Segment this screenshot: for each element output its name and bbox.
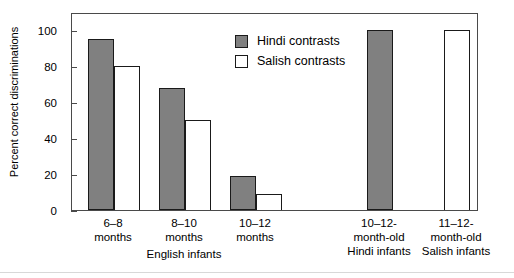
- bar-hindi-infants[interactable]: [367, 30, 393, 210]
- x-category-10-12-months: 10–12 months: [215, 216, 295, 244]
- x-category-salish-infants: 11–12- month-old Salish infants: [411, 216, 501, 258]
- legend-label-salish: Salish contrasts: [257, 54, 345, 68]
- x-category-line1: 10–12: [215, 216, 295, 230]
- x-category-8-10-months: 8–10 months: [144, 216, 224, 244]
- y-tick-mark: [71, 211, 77, 212]
- bottom-divider: [0, 272, 514, 273]
- y-tick-label-20: 20: [17, 167, 57, 183]
- x-category-line2: month-old: [411, 230, 501, 244]
- legend-label-hindi: Hindi contrasts: [257, 34, 340, 48]
- y-tick-mark: [71, 31, 77, 32]
- x-category-line3: Hindi infants: [336, 244, 422, 258]
- white-outlined-square-icon: [235, 55, 248, 68]
- y-tick-label-60: 60: [17, 95, 57, 111]
- bar-salish-infants[interactable]: [444, 30, 470, 210]
- x-category-line2: months: [215, 230, 295, 244]
- x-category-line1: 10–12-: [336, 216, 422, 230]
- x-category-line2: months: [73, 230, 153, 244]
- x-category-hindi-infants: 10–12- month-old Hindi infants: [336, 216, 422, 258]
- x-category-6-8-months: 6–8 months: [73, 216, 153, 244]
- y-tick-label-100: 100: [17, 23, 57, 39]
- y-tick-label-40: 40: [17, 131, 57, 147]
- y-tick-mark: [71, 139, 77, 140]
- x-category-line2: months: [144, 230, 224, 244]
- bar-10-12-months-salish[interactable]: [256, 194, 282, 210]
- y-tick-label-80: 80: [17, 59, 57, 75]
- chart-legend: Hindi contrasts Salish contrasts: [235, 32, 345, 72]
- plot-area: Hindi contrasts Salish contrasts: [71, 13, 478, 211]
- x-category-line1: 11–12-: [411, 216, 501, 230]
- chart-figure: Hindi contrasts Salish contrasts Percent…: [0, 0, 514, 278]
- x-category-line3: Salish infants: [411, 244, 501, 258]
- x-category-line2: month-old: [336, 230, 422, 244]
- bar-10-12-months-hindi[interactable]: [230, 176, 256, 210]
- bar-8-10-months-hindi[interactable]: [159, 88, 185, 210]
- legend-entry-salish[interactable]: Salish contrasts: [235, 52, 345, 70]
- x-category-line1: 8–10: [144, 216, 224, 230]
- x-category-line1: 6–8: [73, 216, 153, 230]
- y-tick-label-0: 0: [17, 203, 57, 219]
- bar-6-8-months-salish[interactable]: [114, 66, 140, 210]
- y-tick-mark: [71, 103, 77, 104]
- y-tick-mark: [71, 175, 77, 176]
- legend-entry-hindi[interactable]: Hindi contrasts: [235, 32, 345, 50]
- gray-filled-square-icon: [235, 35, 248, 48]
- x-axis-group-label: English infants: [87, 248, 281, 260]
- y-tick-mark: [71, 67, 77, 68]
- bar-8-10-months-salish[interactable]: [185, 120, 211, 210]
- bar-6-8-months-hindi[interactable]: [88, 39, 114, 210]
